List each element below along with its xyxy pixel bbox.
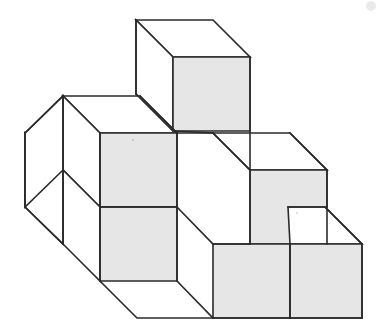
base-front-diagonal-edge xyxy=(177,281,213,318)
scan-artifact-dot xyxy=(366,1,376,11)
middle-shelf-top-face xyxy=(213,133,327,170)
bottom-middle-front-face xyxy=(213,244,290,318)
cube-stack-illustration xyxy=(0,0,380,325)
bottom-right-front-face xyxy=(290,244,362,318)
lower-left-front-face xyxy=(100,207,177,281)
print-speck xyxy=(132,139,134,141)
top-cube-front-face xyxy=(173,57,250,131)
bottom-right-top-face xyxy=(288,207,362,244)
middle-to-bottom-diagonal xyxy=(177,207,213,244)
upper-left-front-face xyxy=(100,133,177,207)
isometric-cube-figure xyxy=(0,0,380,325)
print-speck xyxy=(296,212,298,214)
